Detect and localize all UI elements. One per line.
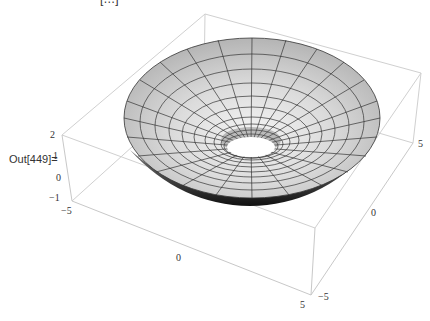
y-tick: −5 — [318, 291, 329, 302]
y-tick: 5 — [418, 138, 423, 149]
funnel-surface — [124, 38, 380, 198]
surface-plot-3d[interactable] — [0, 0, 430, 321]
z-tick: 2 — [50, 129, 55, 140]
x-tick: 0 — [176, 252, 181, 263]
z-tick: 0 — [56, 172, 61, 183]
x-tick: 5 — [300, 299, 305, 310]
z-tick: −1 — [49, 192, 60, 203]
y-tick: 0 — [371, 207, 376, 218]
center-hole — [227, 137, 275, 157]
x-tick: −5 — [61, 205, 72, 216]
z-tick: 1 — [53, 150, 58, 161]
